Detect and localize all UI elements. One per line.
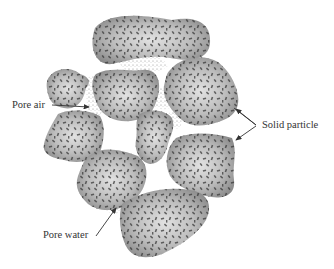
particle-right-lower (167, 134, 235, 198)
particle-bottom (120, 189, 209, 258)
label-pore-water: Pore water (43, 230, 88, 241)
solid-particles (44, 16, 239, 258)
soil-three-phase-diagram: Pore air Solid particle Pore water (0, 0, 334, 269)
label-pore-air: Pore air (12, 100, 45, 111)
solid-particle-arrow-lower (236, 126, 256, 140)
pore-water-arrow (96, 208, 116, 236)
label-solid-particle: Solid particle (262, 120, 318, 131)
particle-small-left (47, 69, 89, 108)
